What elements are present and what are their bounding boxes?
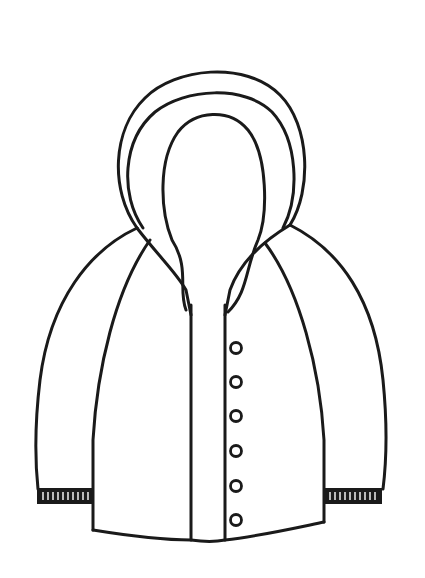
left-sleeve-outer bbox=[36, 228, 137, 489]
button-column bbox=[231, 343, 242, 526]
button-5 bbox=[231, 481, 242, 492]
left-sleeve-inner bbox=[93, 240, 150, 530]
right-cuff bbox=[324, 488, 382, 504]
jacket-hem bbox=[93, 522, 324, 542]
button-2 bbox=[231, 377, 242, 388]
button-1 bbox=[231, 343, 242, 354]
right-sleeve-inner bbox=[265, 243, 324, 522]
button-6 bbox=[231, 515, 242, 526]
left-cuff bbox=[37, 488, 93, 504]
jacket-drawing bbox=[0, 0, 425, 578]
hood-outer-outline bbox=[118, 72, 304, 228]
button-3 bbox=[231, 411, 242, 422]
hood-face-opening bbox=[163, 114, 265, 312]
right-sleeve-outer bbox=[290, 225, 386, 489]
button-4 bbox=[231, 446, 242, 457]
jacket-illustration bbox=[0, 0, 425, 578]
